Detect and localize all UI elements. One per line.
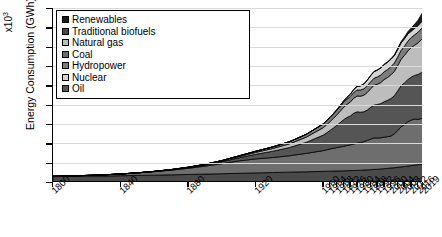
legend-item-label: Hydropower: [72, 60, 126, 71]
legend-item-natural-gas[interactable]: Natural gas: [62, 37, 170, 49]
legend-item-renewables[interactable]: Renewables: [62, 14, 170, 26]
legend-item-label: Traditional biofuels: [72, 26, 156, 37]
legend-swatch-icon: [62, 16, 69, 23]
gridline: [53, 163, 422, 164]
gridline: [53, 143, 422, 144]
legend-item-label: Natural gas: [72, 37, 123, 48]
legend-item-label: Coal: [72, 49, 93, 60]
y-axis-multiplier-exponent: 3: [2, 12, 9, 16]
legend-item-oil[interactable]: Oil: [62, 83, 140, 95]
legend-swatch-icon: [62, 39, 69, 46]
legend-swatch-icon: [62, 51, 69, 58]
y-axis-multiplier-base: x10: [3, 16, 14, 32]
chart-legend: RenewablesTraditional biofuelsNatural ga…: [56, 10, 250, 99]
legend-column-left: RenewablesTraditional biofuelsNatural ga…: [62, 14, 170, 60]
legend-item-coal[interactable]: Coal: [62, 49, 170, 61]
gridline: [53, 105, 422, 106]
gridline: [53, 8, 422, 9]
legend-item-label: Oil: [72, 83, 84, 94]
legend-swatch-icon: [62, 28, 69, 35]
legend-column-right: HydropowerNuclearOil: [62, 60, 140, 95]
legend-item-hydropower[interactable]: Hydropower: [62, 60, 140, 72]
y-axis-multiplier: x103: [2, 5, 14, 39]
legend-item-nuclear[interactable]: Nuclear: [62, 72, 140, 84]
y-axis-title: Energy Consumption (GWh): [24, 0, 36, 144]
legend-item-label: Nuclear: [72, 72, 106, 83]
legend-swatch-icon: [62, 85, 69, 92]
legend-swatch-icon: [62, 62, 69, 69]
legend-item-traditional-biofuels[interactable]: Traditional biofuels: [62, 26, 170, 38]
legend-swatch-icon: [62, 74, 69, 81]
gridline: [53, 124, 422, 125]
legend-item-label: Renewables: [72, 14, 127, 25]
